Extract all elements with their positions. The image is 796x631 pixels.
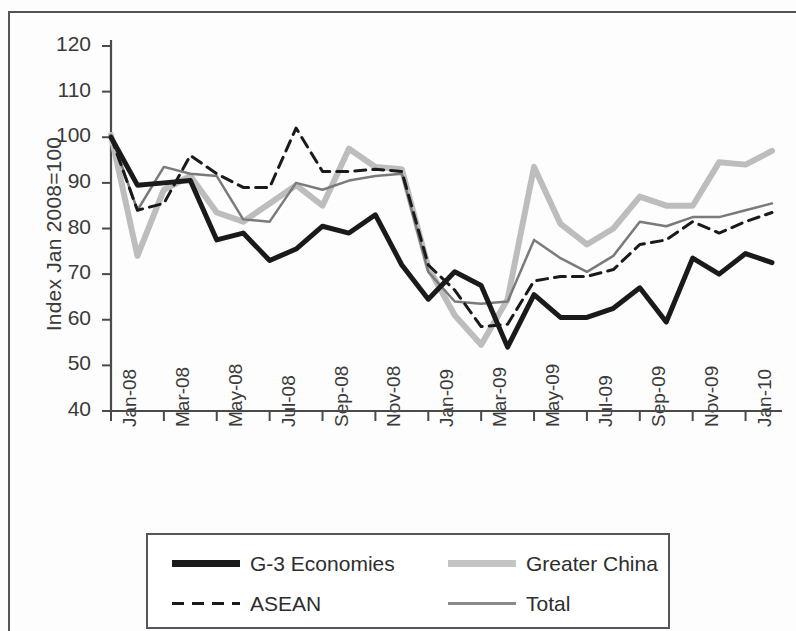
chart-figure: Index Jan 2008=100 120110100908070605040… — [0, 0, 796, 631]
legend-entry-asean: ASEAN — [172, 593, 321, 614]
legend-swatch-g3 — [172, 560, 240, 567]
legend-entry-g3: G-3 Economies — [172, 553, 395, 574]
legend-swatch-greater-china — [448, 560, 516, 567]
legend-swatch-asean — [172, 602, 240, 605]
legend-swatch-total — [448, 602, 516, 605]
legend-label-total: Total — [526, 593, 570, 614]
data-series-layer — [111, 128, 772, 347]
series-line — [111, 135, 772, 345]
legend: G-3 Economies Greater China ASEAN Total — [146, 533, 670, 629]
axis-tick-marks — [102, 46, 746, 421]
legend-label-greater-china: Greater China — [526, 553, 658, 574]
legend-label-asean: ASEAN — [250, 593, 321, 614]
legend-entry-total: Total — [448, 593, 570, 614]
legend-entry-greater-china: Greater China — [448, 553, 658, 574]
legend-label-g3: G-3 Economies — [250, 553, 395, 574]
